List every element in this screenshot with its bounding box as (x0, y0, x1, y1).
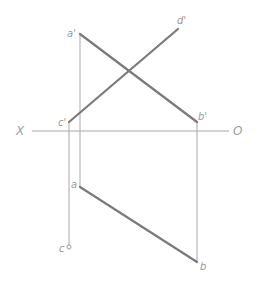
label-c: c (59, 243, 65, 254)
axis-label-x: X (15, 124, 25, 138)
label-a: a (71, 179, 77, 190)
label-d-prime: d' (177, 15, 186, 26)
segment-c-prime-d-prime (69, 29, 178, 122)
segment-a-prime-b-prime (80, 34, 197, 122)
segment-a-b (80, 187, 197, 262)
label-c-prime: c' (58, 117, 66, 128)
label-a-prime: a' (67, 28, 76, 39)
point-c-marker (67, 245, 71, 249)
label-b: b (200, 261, 206, 272)
axis-label-o: O (233, 124, 242, 138)
label-b-prime: b' (198, 111, 207, 122)
projection-diagram: X O a' d' c' b' a c b (0, 0, 266, 289)
